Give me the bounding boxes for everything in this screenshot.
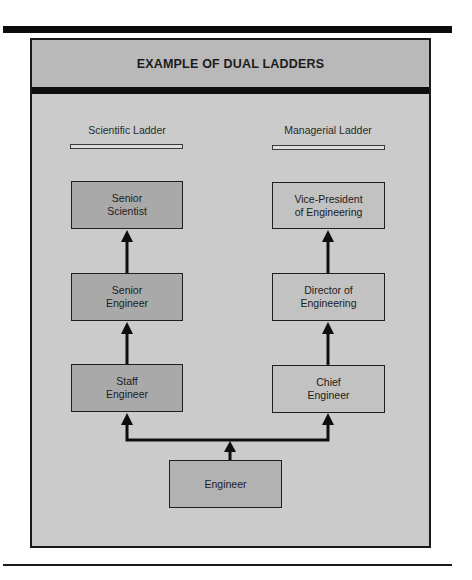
box-label: Senior Engineer bbox=[106, 284, 148, 310]
box-staff-engineer: Staff Engineer bbox=[71, 364, 183, 412]
scientific-ladder-bar bbox=[70, 144, 183, 149]
box-label: Senior Scientist bbox=[107, 192, 147, 218]
managerial-ladder-bar bbox=[272, 145, 385, 150]
box-label: Chief Engineer bbox=[307, 376, 349, 402]
box-director-engineering: Director of Engineering bbox=[272, 273, 385, 321]
managerial-ladder-label: Managerial Ladder bbox=[258, 124, 398, 136]
box-vice-president-engineering: Vice-President of Engineering bbox=[272, 182, 385, 229]
box-label: Director of Engineering bbox=[300, 284, 356, 310]
box-chief-engineer: Chief Engineer bbox=[272, 365, 385, 413]
box-label: Staff Engineer bbox=[106, 375, 148, 401]
box-label: Engineer bbox=[204, 478, 246, 491]
box-senior-scientist: Senior Scientist bbox=[71, 181, 183, 229]
scientific-ladder-label: Scientific Ladder bbox=[57, 124, 197, 136]
box-engineer: Engineer bbox=[169, 460, 282, 508]
top-rule bbox=[3, 26, 452, 33]
diagram-title: EXAMPLE OF DUAL LADDERS bbox=[137, 57, 325, 71]
box-label: Vice-President of Engineering bbox=[294, 193, 362, 219]
header-divider bbox=[32, 87, 429, 94]
bottom-rule bbox=[3, 564, 452, 566]
box-senior-engineer: Senior Engineer bbox=[71, 273, 183, 321]
header: EXAMPLE OF DUAL LADDERS bbox=[32, 40, 429, 87]
